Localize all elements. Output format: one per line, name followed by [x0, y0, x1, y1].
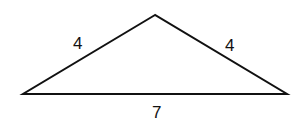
right-side-label: 4	[225, 37, 234, 54]
left-side-label: 4	[73, 35, 82, 52]
triangle-shape	[0, 0, 301, 132]
triangle-diagram: 4 4 7	[0, 0, 301, 132]
base-label: 7	[152, 104, 161, 121]
